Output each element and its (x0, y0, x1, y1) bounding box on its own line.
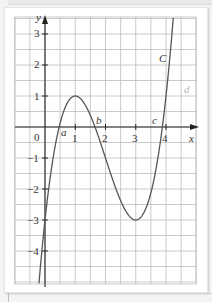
x-tick-label-4: 4 (162, 132, 168, 144)
origin-label: 0 (34, 131, 40, 143)
y-tick-label-2: 2 (34, 58, 40, 70)
root-label-a: a (61, 126, 67, 138)
y-axis-label: y (35, 11, 41, 23)
root-label-b: b (96, 114, 102, 126)
extra-label-d: d (184, 83, 190, 95)
y-tick-label-neg1: −1 (27, 152, 39, 164)
y-tick-label-neg3: −3 (27, 214, 39, 226)
y-tick-label-neg2: −2 (27, 183, 39, 195)
root-label-c: c (152, 114, 157, 126)
y-tick-label-3: 3 (34, 27, 40, 39)
curve-label: C (159, 52, 167, 64)
x-axis-arrow-icon (190, 124, 199, 130)
cubic-graph: y x 0 a b c C d 1 2 3 4 3 2 1 −1 −2 −3 −… (0, 0, 212, 302)
y-tick-label-1: 1 (34, 90, 40, 102)
x-tick-label-1: 1 (72, 132, 78, 144)
x-axis-label: x (188, 132, 194, 144)
y-tick-label-neg4: −4 (27, 245, 39, 257)
x-tick-label-3: 3 (132, 132, 138, 144)
curve-c (39, 18, 173, 284)
y-axis-arrow-icon (42, 15, 48, 24)
x-tick-label-2: 2 (102, 132, 108, 144)
